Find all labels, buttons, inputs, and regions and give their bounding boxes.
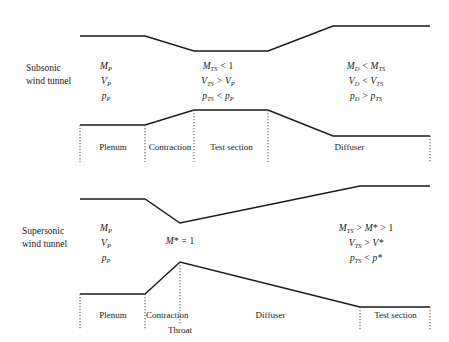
subsonic-test-pressure: pTS < pP [176, 90, 260, 105]
supersonic-section-plenum: Plenum [82, 310, 144, 320]
subsonic-diffuser-mach: MD < MTS [318, 60, 414, 75]
subsonic-plenum-equations: MP VP pP [78, 60, 134, 104]
subsonic-section-test-section: Test section [196, 142, 267, 152]
supersonic-test-mach: MTS > M* > 1 [310, 222, 422, 237]
supersonic-test-section-equations: MTS > M* > 1 VTS > V* pTS < p* [310, 222, 422, 266]
supersonic-section-contraction: Contraction [146, 310, 180, 320]
subsonic-diffuser-equations: MD < MTS VD < VTS pD > pTS [318, 60, 414, 104]
tunnel-geometry [0, 0, 449, 342]
supersonic-upper-wall [80, 186, 430, 223]
supersonic-plenum-mach: MP [78, 222, 134, 237]
supersonic-test-velocity: VTS > V* [310, 237, 422, 252]
supersonic-throat-label: Throat [150, 325, 210, 335]
supersonic-plenum-pressure: pP [78, 252, 134, 267]
supersonic-plenum-velocity: VP [78, 237, 134, 252]
supersonic-throat-condition: M* = 1 [140, 236, 220, 246]
subsonic-diffuser-pressure: pD > pTS [318, 90, 414, 105]
subsonic-section-diffuser: Diffuser [270, 142, 429, 152]
subsonic-test-section-equations: MTS < 1 VTS > VP pTS < pP [176, 60, 260, 104]
subsonic-plenum-pressure: pP [78, 90, 134, 105]
subsonic-section-contraction: Contraction [146, 142, 194, 152]
subsonic-test-mach: MTS < 1 [176, 60, 260, 75]
subsonic-plenum-velocity: VP [78, 75, 134, 90]
supersonic-lower-wall [80, 262, 430, 307]
subsonic-section-plenum: Plenum [82, 142, 144, 152]
subsonic-upper-wall [80, 26, 430, 51]
figure-canvas: Subsonic wind tunnel MP VP pP MTS < 1 VT… [0, 0, 449, 342]
subsonic-diffuser-velocity: VD < VTS [318, 75, 414, 90]
subsonic-test-velocity: VTS > VP [176, 75, 260, 90]
supersonic-plenum-equations: MP VP pP [78, 222, 134, 266]
subsonic-plenum-mach: MP [78, 60, 134, 75]
supersonic-section-test-section: Test section [362, 310, 429, 320]
supersonic-test-pressure: pTS < p* [310, 252, 422, 267]
supersonic-section-diffuser: Diffuser [182, 310, 359, 320]
subsonic-lower-wall [80, 110, 430, 136]
